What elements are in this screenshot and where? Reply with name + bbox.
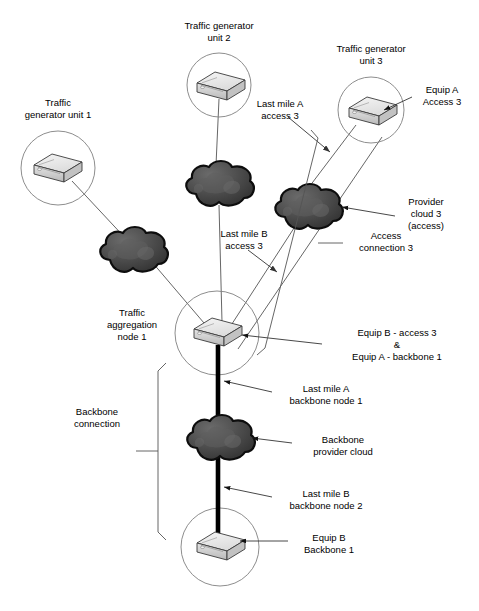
cloud-icon-access-2 <box>186 161 253 206</box>
label-equip-a-access-3: Equip A Access 3 <box>409 84 475 108</box>
cloud-icon-backbone <box>187 415 254 460</box>
link-cloud2-agg <box>219 205 222 322</box>
label-last-mile-b-access-3: Last mile B access 3 <box>207 228 281 252</box>
router-icon-generator-3 <box>349 97 397 125</box>
leader-last-mile-a-backbone-node-1 <box>224 381 272 392</box>
diagram-canvas <box>0 0 479 611</box>
label-traffic-generator-unit-3: Traffic generator unit 3 <box>315 43 427 67</box>
router-icon-aggregation-node-1 <box>194 318 242 346</box>
leader-provider-cloud-3 <box>342 207 395 216</box>
router-icon-equip-b-backbone-1 <box>197 532 245 560</box>
label-traffic-generator-unit-1: Traffic generator unit 1 <box>6 97 110 121</box>
label-access-connection-3: Access connection 3 <box>344 230 428 254</box>
label-last-mile-a-access-3: Last mile A access 3 <box>243 98 317 122</box>
leader-last-mile-a-access-3 <box>288 117 330 152</box>
cloud-icon-access-1 <box>100 227 167 272</box>
annotation-leaders <box>224 97 412 541</box>
label-last-mile-b-backbone-node-2: Last mile B backbone node 2 <box>271 488 381 512</box>
label-traffic-generator-unit-2: Traffic generator unit 2 <box>163 20 275 44</box>
leader-backbone-provider-cloud <box>252 438 292 443</box>
label-equip-b-backbone-1: Equip B Backbone 1 <box>290 532 368 556</box>
label-last-mile-a-backbone-node-1: Last mile A backbone node 1 <box>271 383 381 407</box>
label-equip-b-access-3-and-equip-a-backbone-1: Equip B - access 3 & Equip A - backbone … <box>321 327 473 363</box>
network-diagram: Traffic generator unit 1 Traffic generat… <box>0 0 479 611</box>
label-backbone-connection: Backbone connection <box>56 406 138 430</box>
link-gen2-cloud2 <box>216 99 219 165</box>
label-traffic-aggregation-node-1: Traffic aggregation node 1 <box>90 307 174 343</box>
cloud-icon-access-3 <box>275 184 342 229</box>
label-provider-cloud-3-access: Provider cloud 3 (access) <box>391 196 461 232</box>
router-icon-generator-2 <box>197 72 245 100</box>
leader-last-mile-b-backbone-node-2 <box>224 487 272 497</box>
label-backbone-provider-cloud: Backbone provider cloud <box>291 434 395 458</box>
leader-equip-b-access-3 <box>242 335 322 344</box>
router-icon-generator-1 <box>34 154 82 182</box>
bracket-icon-backbone-connection <box>136 363 166 540</box>
